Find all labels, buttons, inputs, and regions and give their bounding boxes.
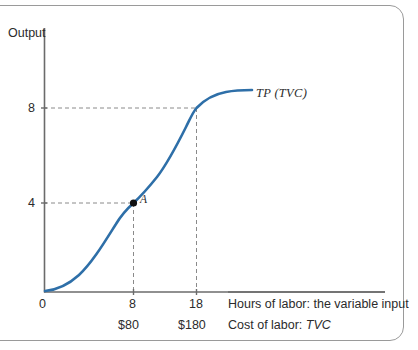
y-tick-label-4: 4 [28, 196, 35, 210]
y-axis-title: Output [8, 26, 46, 40]
cost-caption-prefix: Cost of labor: [228, 318, 306, 332]
cost-axis-caption: Cost of labor: TVC [228, 318, 331, 332]
cost-caption-tvc: TVC [306, 318, 331, 332]
point-a-marker [130, 199, 137, 206]
x-tick-label-0: 0 [39, 297, 46, 311]
cost-tick-label-80: $80 [118, 318, 139, 332]
y-tick-label-8: 8 [28, 101, 35, 115]
point-a-label: A [140, 193, 147, 205]
x-tick-label-18: 18 [189, 297, 203, 311]
figure-container: Output 8 4 0 8 18 $80 $180 Hours of labo… [0, 0, 418, 350]
cost-tick-label-180: $180 [178, 318, 206, 332]
x-axis-caption: Hours of labor: the variable input [228, 297, 409, 311]
tp-tvc-curve [45, 90, 252, 291]
tp-tvc-curve-label: TP (TVC) [256, 86, 307, 101]
x-tick-label-8: 8 [129, 297, 136, 311]
